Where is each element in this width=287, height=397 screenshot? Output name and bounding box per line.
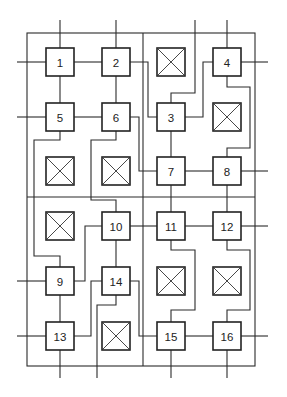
node-label: 8 (224, 166, 230, 178)
empty-cell-x-icon (213, 267, 241, 295)
node-3: 3 (157, 103, 185, 131)
empty-cell-x-icon (46, 212, 74, 240)
node-10: 10 (102, 212, 130, 240)
node-label: 7 (168, 166, 174, 178)
node-14: 14 (102, 267, 130, 295)
node-label: 4 (224, 57, 231, 69)
node-7: 7 (157, 157, 185, 185)
wire-w-5-9 (34, 131, 60, 267)
empty-cell-x-icon (102, 322, 130, 350)
node-5: 5 (46, 103, 74, 131)
node-label: 1 (57, 57, 63, 69)
outer-frame (27, 33, 255, 366)
node-label: 12 (221, 221, 234, 233)
empty-cell-x-icon (46, 157, 74, 185)
node-1: 1 (46, 48, 74, 76)
empty-cell-x-icon (157, 48, 185, 76)
node-label: 11 (165, 221, 177, 233)
node-label: 10 (110, 221, 123, 233)
interconnect-diagram: 12456378101112914131516 (0, 0, 287, 397)
node-9: 9 (46, 267, 74, 295)
node-label: 3 (168, 112, 174, 124)
wire-w-10-9 (74, 226, 102, 281)
node-label: 16 (221, 331, 234, 343)
node-2: 2 (102, 48, 130, 76)
node-label: 14 (110, 276, 123, 288)
empty-cell-x-icon (102, 157, 130, 185)
frame-border (27, 33, 255, 366)
node-label: 13 (54, 331, 67, 343)
wire-w-14-13 (74, 281, 102, 336)
node-6: 6 (102, 103, 130, 131)
node-4: 4 (213, 48, 241, 76)
node-12: 12 (213, 212, 241, 240)
node-label: 9 (57, 276, 63, 288)
node-label: 15 (165, 331, 178, 343)
node-label: 5 (57, 112, 63, 124)
node-13: 13 (46, 322, 74, 350)
empty-cell-x-icon (213, 103, 241, 131)
wire-w-4-3 (185, 62, 213, 117)
empty-cell-x-icon (157, 267, 185, 295)
node-label: 6 (113, 112, 119, 124)
node-11: 11 (157, 212, 185, 240)
node-16: 16 (213, 322, 241, 350)
node-8: 8 (213, 157, 241, 185)
node-15: 15 (157, 322, 185, 350)
node-label: 2 (113, 57, 119, 69)
